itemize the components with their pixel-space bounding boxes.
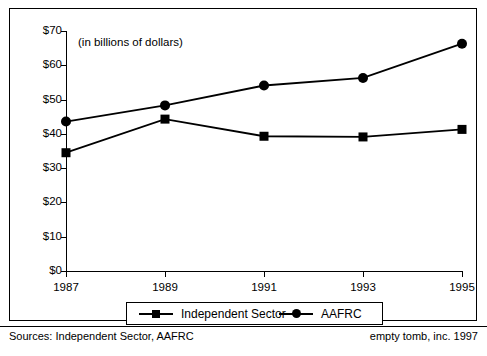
legend-item-aafrc: AAFRC xyxy=(279,306,362,322)
legend-label: Independent Sector xyxy=(181,307,286,321)
legend-label: AAFRC xyxy=(321,307,362,321)
footer-divider xyxy=(0,326,487,327)
footer-credit: empty tomb, inc. 1997 xyxy=(370,330,478,343)
series-plot xyxy=(10,9,478,322)
square-marker-icon xyxy=(152,310,160,318)
square-marker-icon xyxy=(62,148,71,157)
circle-marker-icon xyxy=(259,81,269,91)
square-marker-icon xyxy=(359,132,368,141)
chart-page: (in billions of dollars) $0$10$20$30$40$… xyxy=(0,0,487,356)
legend-line-square xyxy=(139,313,173,315)
circle-marker-icon xyxy=(457,39,467,49)
legend-item-independent-sector: Independent Sector xyxy=(139,306,286,322)
square-marker-icon xyxy=(260,132,269,141)
chart-frame: (in billions of dollars) $0$10$20$30$40$… xyxy=(9,8,477,321)
circle-marker-icon xyxy=(160,100,170,110)
circle-marker-icon xyxy=(292,309,301,318)
square-marker-icon xyxy=(458,125,467,134)
circle-marker-icon xyxy=(358,73,368,83)
square-marker-icon xyxy=(161,115,170,124)
legend-line-circle xyxy=(279,313,313,315)
circle-marker-icon xyxy=(61,117,71,127)
footer-sources: Sources: Independent Sector, AAFRC xyxy=(9,330,194,343)
chart-legend: Independent Sector AAFRC xyxy=(126,302,383,325)
